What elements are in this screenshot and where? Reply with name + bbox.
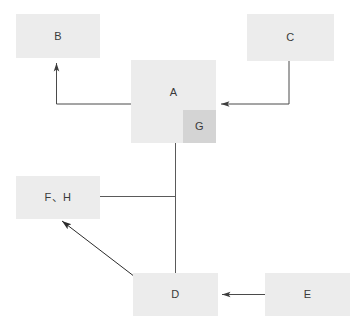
node-b-label: B	[54, 31, 62, 42]
node-c-label: C	[286, 32, 294, 43]
node-d-label: D	[171, 289, 179, 300]
node-f-h-label: F、H	[45, 192, 72, 203]
node-layer: B C A G F、H D E	[0, 0, 360, 330]
node-d[interactable]: D	[133, 273, 218, 316]
node-e[interactable]: E	[265, 273, 350, 316]
node-g-label: G	[195, 121, 204, 132]
node-a-label: A	[170, 87, 178, 98]
node-c[interactable]: C	[247, 14, 334, 61]
node-f-h[interactable]: F、H	[16, 176, 100, 219]
node-e-label: E	[304, 289, 312, 300]
node-b[interactable]: B	[16, 14, 100, 58]
node-g[interactable]: G	[183, 110, 216, 143]
